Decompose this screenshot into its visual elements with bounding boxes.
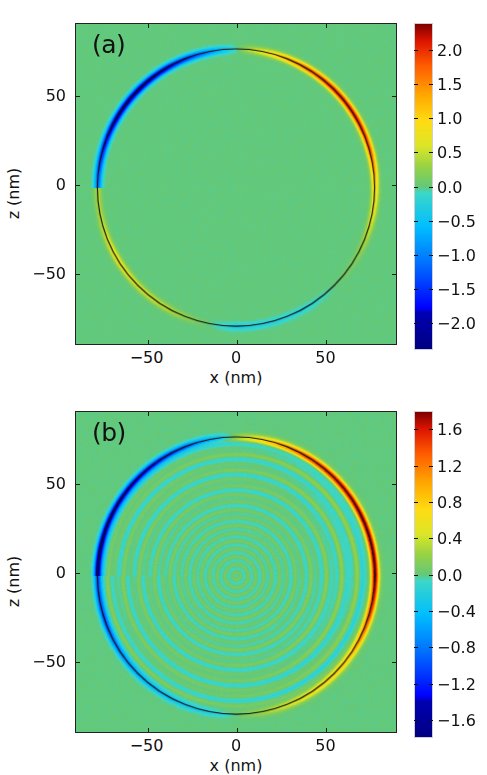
- colorbar-tick-right: [429, 152, 433, 153]
- x-tick-labels-b: −50050: [75, 736, 397, 758]
- x-tick: [237, 728, 238, 733]
- x-tick-label: 0: [231, 736, 241, 755]
- colorbar-tick-right: [429, 221, 433, 222]
- colorbar-tick: [414, 611, 418, 612]
- panel-a: (a) −50050 −50050 x (nm) z (nm) 2.01.51.…: [0, 0, 487, 387]
- x-tick: [148, 340, 149, 345]
- colorbar-ticks-b: [414, 411, 433, 738]
- colorbar-tick-labels-b: 1.61.20.80.40.0−0.4−0.8−1.2−1.6: [437, 411, 484, 738]
- y-tick-right: [392, 573, 397, 574]
- heatmap-canvas-a: [76, 24, 396, 344]
- colorbar-tick-label: −1.6: [437, 710, 476, 729]
- colorbar-tick: [414, 429, 418, 430]
- colorbar-tick: [414, 289, 418, 290]
- x-tick: [326, 340, 327, 345]
- colorbar-tick-label: 1.5: [437, 75, 462, 94]
- y-tick-label: 0: [56, 175, 66, 194]
- y-tick: [75, 662, 80, 663]
- colorbar-tick-right: [429, 502, 433, 503]
- colorbar-tick: [414, 50, 418, 51]
- colorbar-tick-label: 0.8: [437, 492, 462, 511]
- y-tick: [75, 484, 80, 485]
- x-tick-label: −50: [130, 348, 164, 367]
- colorbar-tick-right: [429, 647, 433, 648]
- colorbar-tick-right: [429, 187, 433, 188]
- colorbar-tick-right: [429, 323, 433, 324]
- x-tick: [237, 340, 238, 345]
- colorbar-tick-right: [429, 429, 433, 430]
- x-axis-title-a: x (nm): [75, 368, 397, 387]
- colorbar-tick-labels-a: 2.01.51.00.50.0−0.5−1.0−1.5−2.0: [437, 23, 484, 350]
- panel-label-a: (a): [92, 30, 125, 59]
- x-tick-label: 0: [231, 348, 241, 367]
- x-tick-top: [237, 411, 238, 416]
- colorbar-tick: [414, 502, 418, 503]
- y-tick-right: [392, 274, 397, 275]
- colorbar-tick: [414, 684, 418, 685]
- colorbar-tick: [414, 466, 418, 467]
- colorbar-tick-label: −0.5: [437, 211, 476, 230]
- colorbar-tick-label: −2.0: [437, 313, 476, 332]
- x-tick-labels-a: −50050: [75, 348, 397, 370]
- colorbar-tick: [414, 221, 418, 222]
- colorbar-tick: [414, 538, 418, 539]
- colorbar-tick-label: 1.6: [437, 420, 462, 439]
- y-tick-label: 50: [46, 473, 66, 492]
- x-tick-top: [326, 411, 327, 416]
- colorbar-tick-right: [429, 466, 433, 467]
- colorbar-tick-label: 2.0: [437, 41, 462, 60]
- y-tick-label: −50: [32, 264, 66, 283]
- colorbar-a: 2.01.51.00.50.0−0.5−1.0−1.5−2.0: [414, 23, 484, 350]
- colorbar-tick-label: 0.5: [437, 143, 462, 162]
- y-tick-label: 50: [46, 85, 66, 104]
- colorbar-tick-label: 1.2: [437, 456, 462, 475]
- colorbar-ticks-a: [414, 23, 433, 350]
- x-tick-label: −50: [130, 736, 164, 755]
- y-tick-right: [392, 484, 397, 485]
- colorbar-tick: [414, 152, 418, 153]
- plot-area-a: (a): [75, 23, 397, 345]
- y-tick: [75, 274, 80, 275]
- colorbar-tick-label: −1.5: [437, 279, 476, 298]
- colorbar-tick-right: [429, 50, 433, 51]
- y-tick-right: [392, 96, 397, 97]
- colorbar-tick-label: 1.0: [437, 109, 462, 128]
- colorbar-tick-right: [429, 289, 433, 290]
- colorbar-tick-label: −1.2: [437, 674, 476, 693]
- x-axis-title-b: x (nm): [75, 756, 397, 775]
- x-tick-top: [148, 23, 149, 28]
- panel-label-b: (b): [92, 418, 126, 447]
- colorbar-tick: [414, 187, 418, 188]
- colorbar-tick: [414, 84, 418, 85]
- colorbar-tick-right: [429, 720, 433, 721]
- plot-area-b: (b): [75, 411, 397, 733]
- colorbar-tick: [414, 647, 418, 648]
- x-tick-top: [237, 23, 238, 28]
- y-tick-right: [392, 185, 397, 186]
- x-tick: [148, 728, 149, 733]
- x-tick-label: 50: [315, 348, 335, 367]
- panel-b: (b) −50050 −50050 x (nm) z (nm) 1.61.20.…: [0, 388, 487, 775]
- colorbar-tick: [414, 118, 418, 119]
- x-tick-top: [148, 411, 149, 416]
- y-tick: [75, 96, 80, 97]
- colorbar-tick-label: 0.0: [437, 177, 462, 196]
- colorbar-b: 1.61.20.80.40.0−0.4−0.8−1.2−1.6: [414, 411, 484, 738]
- y-axis-title-a: z (nm): [4, 149, 23, 239]
- y-tick-label: 0: [56, 563, 66, 582]
- x-tick-label: 50: [315, 736, 335, 755]
- colorbar-tick-label: −0.4: [437, 601, 476, 620]
- colorbar-tick: [414, 323, 418, 324]
- y-tick-right: [392, 662, 397, 663]
- colorbar-tick-right: [429, 611, 433, 612]
- x-tick-top: [326, 23, 327, 28]
- colorbar-tick-right: [429, 538, 433, 539]
- colorbar-tick-label: 0.0: [437, 565, 462, 584]
- colorbar-tick-right: [429, 684, 433, 685]
- figure-root: (a) −50050 −50050 x (nm) z (nm) 2.01.51.…: [0, 0, 487, 775]
- y-axis-title-b: z (nm): [4, 537, 23, 627]
- colorbar-tick-label: −1.0: [437, 245, 476, 264]
- colorbar-tick: [414, 720, 418, 721]
- y-tick: [75, 185, 80, 186]
- heatmap-canvas-b: [76, 412, 396, 732]
